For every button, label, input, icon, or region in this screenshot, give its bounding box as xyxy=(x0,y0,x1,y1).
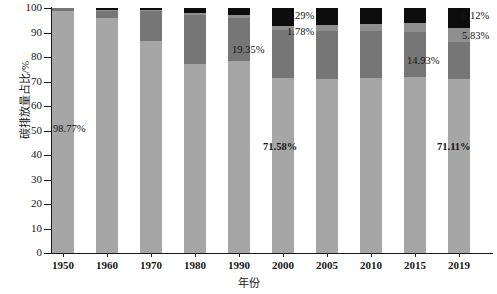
bar-segment-2019-series-1 xyxy=(448,79,470,253)
bar-segment-2010-series-3 xyxy=(360,24,382,30)
bar-segment-2010-series-2 xyxy=(360,31,382,78)
bar-1970 xyxy=(140,8,162,253)
bar-segment-1980-series-3 xyxy=(184,13,206,15)
bar-segment-1990-series-4 xyxy=(228,8,250,15)
bar-2010 xyxy=(360,8,382,253)
chart-canvas: 碳排放量占比/% 0102030405060708090100 年份 19501… xyxy=(0,0,497,294)
bar-2000 xyxy=(272,8,294,253)
y-axis-tick-label: 50 xyxy=(2,125,42,136)
value-label-a2019-mid: 5.83% xyxy=(462,31,489,42)
plot-area xyxy=(52,8,490,253)
bar-segment-1990-series-1 xyxy=(228,61,250,253)
bar-segment-1960-series-4 xyxy=(96,8,118,10)
y-axis-tick xyxy=(44,229,51,230)
x-axis-tick xyxy=(239,253,240,257)
bar-segment-1980-series-1 xyxy=(184,64,206,253)
bar-segment-1990-series-3 xyxy=(228,15,250,19)
bar-segment-1950-series-2 xyxy=(52,8,74,11)
y-axis-tick xyxy=(44,180,51,181)
bar-segment-2015-series-1 xyxy=(404,77,426,253)
y-axis-tick-labels: 0102030405060708090100 xyxy=(0,0,42,294)
x-axis-line xyxy=(51,253,493,254)
x-axis-tick xyxy=(151,253,152,257)
bar-segment-2010-series-1 xyxy=(360,78,382,253)
y-axis-tick xyxy=(44,106,51,107)
bar-segment-1980-series-2 xyxy=(184,15,206,64)
y-axis-tick-label: 80 xyxy=(2,51,42,62)
bar-2005 xyxy=(316,8,338,253)
y-axis-tick-label: 60 xyxy=(2,100,42,111)
value-label-a2000-mid: 1.78% xyxy=(287,27,314,38)
bar-segment-2019-series-2 xyxy=(448,42,470,79)
y-axis-tick xyxy=(44,8,51,9)
value-label-a2019-top: 8.12% xyxy=(462,11,489,22)
x-axis-title: 年份 xyxy=(0,274,497,290)
y-axis-tick xyxy=(44,155,51,156)
y-axis-tick xyxy=(44,131,51,132)
bar-segment-1970-series-2 xyxy=(140,11,162,41)
y-axis-tick xyxy=(44,82,51,83)
bar-1980 xyxy=(184,8,206,253)
bar-segment-1960-series-1 xyxy=(96,18,118,253)
y-axis-tick xyxy=(44,204,51,205)
y-axis-tick-label: 90 xyxy=(2,27,42,38)
x-axis-tick xyxy=(195,253,196,257)
y-axis-tick-label: 70 xyxy=(2,76,42,87)
value-label-a2000-top: 7.29% xyxy=(287,11,314,22)
y-axis-tick-label: 20 xyxy=(2,198,42,209)
x-axis-tick xyxy=(415,253,416,257)
value-label-a2019-dark: 14.93% xyxy=(407,56,439,67)
y-axis-tick xyxy=(44,253,51,254)
bar-2015 xyxy=(404,8,426,253)
value-label-a2000-dark: 19.35% xyxy=(232,45,264,56)
bar-segment-1970-series-4 xyxy=(140,8,162,10)
x-axis-tick-label-2019: 2019 xyxy=(429,259,489,271)
bar-segment-1970-series-3 xyxy=(140,10,162,11)
y-axis-tick xyxy=(44,33,51,34)
x-axis-tick xyxy=(283,253,284,257)
bar-segment-2000-series-1 xyxy=(272,78,294,253)
x-axis-tick xyxy=(327,253,328,257)
x-axis-tick xyxy=(107,253,108,257)
bar-segment-2005-series-1 xyxy=(316,79,338,253)
value-label-a2000-base: 71.58% xyxy=(263,142,297,153)
bar-segment-2010-series-4 xyxy=(360,8,382,24)
y-axis-tick-label: 40 xyxy=(2,149,42,160)
bar-segment-2015-series-4 xyxy=(404,8,426,23)
bar-segment-1960-series-2 xyxy=(96,10,118,18)
value-label-a1950: 98.77% xyxy=(53,124,85,135)
bar-segment-2005-series-2 xyxy=(316,31,338,79)
y-axis-tick xyxy=(44,57,51,58)
bar-segment-2015-series-3 xyxy=(404,23,426,31)
bar-2019 xyxy=(448,8,470,253)
x-axis-tick xyxy=(371,253,372,257)
value-label-a2019-base: 71.11% xyxy=(437,142,471,153)
y-axis-tick-label: 30 xyxy=(2,174,42,185)
y-axis-tick-label: 100 xyxy=(2,2,42,13)
x-axis-tick xyxy=(63,253,64,257)
bar-segment-2005-series-4 xyxy=(316,8,338,25)
bar-segment-1970-series-1 xyxy=(140,41,162,253)
y-axis-tick-label: 0 xyxy=(2,247,42,258)
x-axis-tick xyxy=(459,253,460,257)
bar-1960 xyxy=(96,8,118,253)
bar-segment-1980-series-4 xyxy=(184,8,206,13)
bar-segment-2005-series-3 xyxy=(316,25,338,30)
y-axis-tick-label: 10 xyxy=(2,223,42,234)
